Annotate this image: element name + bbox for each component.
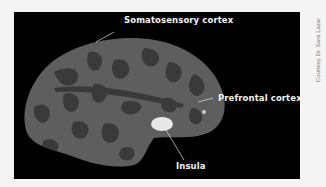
label-insula: Insula	[176, 162, 206, 171]
label-prefrontal-cortex: Prefrontal cortex	[218, 94, 300, 103]
image-credit: Courtesy Dr. Sara Lazar	[315, 18, 321, 82]
label-somatosensory-cortex: Somatosensory cortex	[124, 16, 233, 25]
figure-panel: Somatosensory cortex Prefrontal cortex I…	[14, 12, 300, 179]
